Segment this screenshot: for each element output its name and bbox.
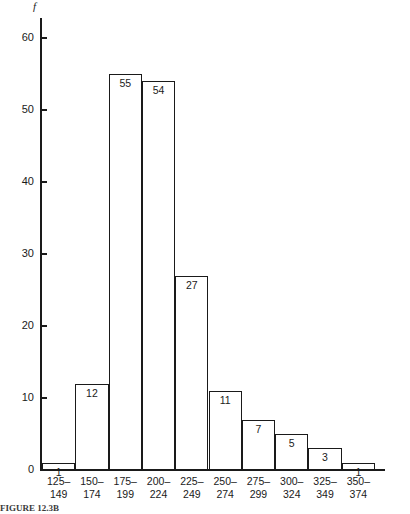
bar-value-label: 12 xyxy=(75,388,108,399)
x-axis-tick-label: 325–349 xyxy=(308,475,341,501)
y-axis-tick-label: 60 xyxy=(0,32,34,43)
y-axis-tick-label: 0 xyxy=(0,464,34,475)
histogram-bar xyxy=(109,74,142,470)
y-axis-tick xyxy=(40,397,47,399)
x-axis-tick-label: 300–324 xyxy=(275,475,308,501)
x-axis-tick-label-line: 149 xyxy=(42,488,75,501)
x-axis-tick-label-line: 374 xyxy=(342,488,375,501)
x-axis-tick-label-line: 225– xyxy=(175,475,208,488)
y-axis-tick xyxy=(40,253,47,255)
y-axis-tick xyxy=(40,181,47,183)
x-axis-tick-label-line: 150– xyxy=(75,475,108,488)
x-axis-tick-label-line: 325– xyxy=(308,475,341,488)
bar-value-label: 11 xyxy=(209,395,242,406)
x-axis-tick-label: 150–174 xyxy=(75,475,108,501)
x-axis-tick-label: 225–249 xyxy=(175,475,208,501)
bar-value-label: 54 xyxy=(142,85,175,96)
x-axis-tick-label-line: 175– xyxy=(109,475,142,488)
x-axis-tick-label-line: 224 xyxy=(142,488,175,501)
y-axis-tick xyxy=(40,325,47,327)
y-axis-tick-label: 40 xyxy=(0,176,34,187)
bar-value-label: 5 xyxy=(275,438,308,449)
y-axis-tick-label: 50 xyxy=(0,104,34,115)
y-axis-tick xyxy=(40,37,47,39)
y-axis-tick-label: 10 xyxy=(0,392,34,403)
bar-value-label: 27 xyxy=(175,280,208,291)
x-axis-tick-label: 275–299 xyxy=(242,475,275,501)
x-axis-tick-label: 125–149 xyxy=(42,475,75,501)
x-axis-tick-label: 200–224 xyxy=(142,475,175,501)
x-axis-tick-label-line: 174 xyxy=(75,488,108,501)
x-axis-tick-label-line: 200– xyxy=(142,475,175,488)
bar-value-label: 3 xyxy=(308,452,341,463)
x-axis-tick-label-line: 274 xyxy=(209,488,242,501)
histogram-bar xyxy=(175,276,208,470)
bar-value-label: 7 xyxy=(242,424,275,435)
x-axis-tick-label: 350–374 xyxy=(342,475,375,501)
x-axis-tick-label-line: 300– xyxy=(275,475,308,488)
x-axis-tick-label-line: 275– xyxy=(242,475,275,488)
histogram-figure: f 0102030405060 112555427117531 125–1491… xyxy=(0,0,410,514)
x-axis-tick-label-line: 299 xyxy=(242,488,275,501)
y-axis-tick xyxy=(40,109,47,111)
x-axis-tick-label: 250–274 xyxy=(209,475,242,501)
y-axis-title: f xyxy=(33,0,36,12)
x-axis-tick-label-line: 349 xyxy=(308,488,341,501)
x-axis-tick-label-line: 249 xyxy=(175,488,208,501)
y-axis-line xyxy=(40,18,42,471)
x-axis-tick-label-line: 350– xyxy=(342,475,375,488)
x-axis-tick-label-line: 324 xyxy=(275,488,308,501)
histogram-bar xyxy=(142,81,175,470)
bar-value-label: 55 xyxy=(109,78,142,89)
x-axis-tick-label-line: 250– xyxy=(209,475,242,488)
y-axis-tick-label: 20 xyxy=(0,320,34,331)
x-axis-tick-label-line: 199 xyxy=(109,488,142,501)
x-axis-tick-label: 175–199 xyxy=(109,475,142,501)
x-axis-tick-label-line: 125– xyxy=(42,475,75,488)
y-axis-tick-label: 30 xyxy=(0,248,34,259)
figure-caption: FIGURE 12.3B xyxy=(0,503,410,514)
